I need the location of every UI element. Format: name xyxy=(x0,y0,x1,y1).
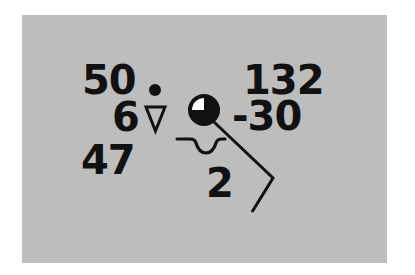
station-symbols xyxy=(0,0,415,275)
rain-shower-icon xyxy=(146,84,165,131)
cumulus-cloud-icon xyxy=(177,139,225,153)
wind-barb-icon xyxy=(214,122,273,212)
